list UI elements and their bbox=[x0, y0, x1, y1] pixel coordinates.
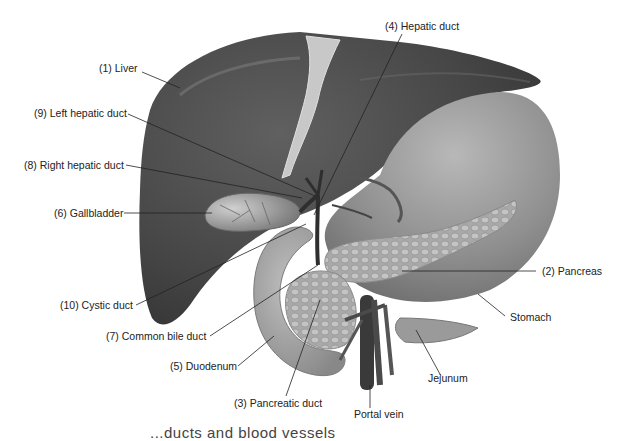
label-common-bile-duct: (7) Common bile duct bbox=[106, 330, 206, 342]
label-portal-vein: Portal vein bbox=[354, 408, 404, 420]
figure-caption: ...ducts and blood vessels bbox=[150, 424, 336, 441]
label-pancreatic-duct: (3) Pancreatic duct bbox=[234, 397, 322, 409]
label-liver: (1) Liver bbox=[99, 62, 138, 74]
label-stomach: Stomach bbox=[510, 311, 551, 323]
label-jejunum: Jejunum bbox=[428, 372, 468, 384]
gallbladder bbox=[205, 193, 300, 231]
jejunum bbox=[395, 318, 478, 343]
label-gallbladder: (6) Gallbladder bbox=[54, 207, 123, 219]
label-hepatic-duct: (4) Hepatic duct bbox=[385, 20, 459, 32]
label-left-hepatic-duct: (9) Left hepatic duct bbox=[34, 107, 127, 119]
label-pancreas: (2) Pancreas bbox=[542, 265, 602, 277]
label-cystic-duct: (10) Cystic duct bbox=[60, 299, 133, 311]
label-duodenum: (5) Duodenum bbox=[170, 360, 237, 372]
label-right-hepatic-duct: (8) Right hepatic duct bbox=[24, 159, 124, 171]
